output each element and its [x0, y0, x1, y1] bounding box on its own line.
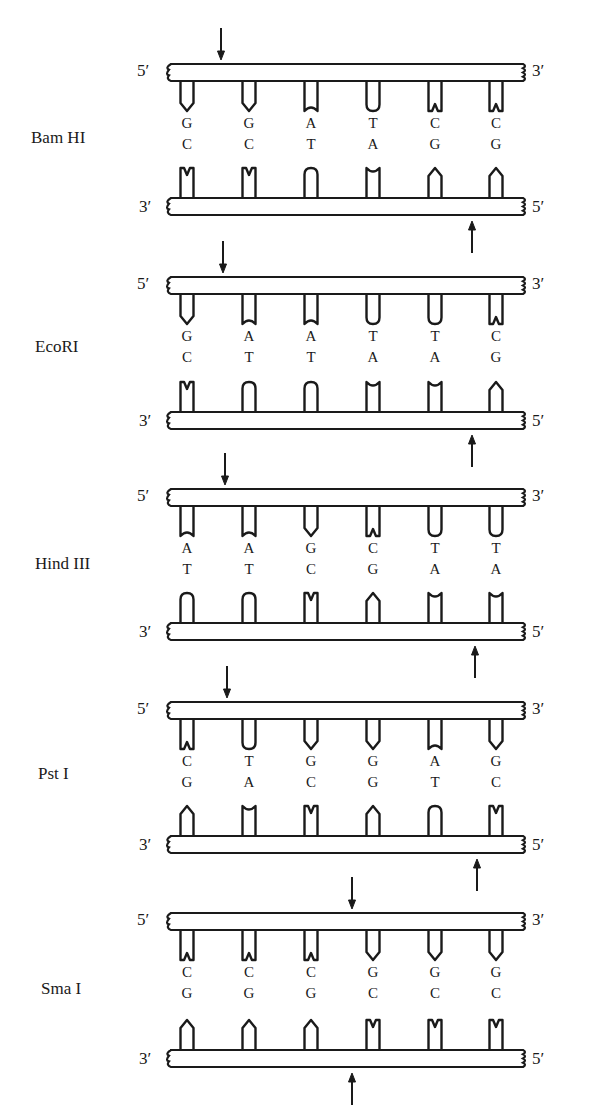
enzyme-panel-pst-i — [167, 666, 525, 891]
base-letter-top: T — [363, 116, 383, 131]
base-letter-bottom: G — [425, 137, 445, 152]
top-strand — [167, 913, 525, 930]
cut-arrow-down-icon — [218, 51, 225, 60]
top-5-prime-label: 5′ — [137, 274, 149, 294]
base-letter-top: G — [239, 116, 259, 131]
enzyme-panel-sma-i — [167, 877, 525, 1105]
base-A-icon — [429, 382, 442, 412]
base-C-icon — [181, 719, 194, 749]
base-A-icon — [367, 168, 380, 198]
base-C-icon — [305, 593, 318, 623]
bottom-5-prime-label: 5′ — [532, 1049, 544, 1069]
base-letter-bottom: C — [177, 350, 197, 365]
top-strand — [167, 277, 525, 294]
base-G-icon — [490, 930, 503, 960]
top-strand — [167, 489, 525, 506]
base-A-icon — [490, 593, 503, 623]
base-A-icon — [305, 294, 318, 324]
base-letter-bottom: G — [177, 986, 197, 1001]
base-C-icon — [181, 930, 194, 960]
base-G-icon — [181, 806, 194, 836]
bottom-5-prime-label: 5′ — [532, 197, 544, 217]
base-letter-bottom: C — [239, 137, 259, 152]
cut-arrow-down-icon — [224, 689, 231, 698]
base-letter-top: G — [177, 116, 197, 131]
base-G-icon — [243, 1020, 256, 1050]
base-letter-top: G — [301, 541, 321, 556]
cut-arrow-up-icon — [474, 859, 481, 868]
base-letter-bottom: G — [177, 775, 197, 790]
base-G-icon — [243, 81, 256, 111]
base-G-icon — [367, 930, 380, 960]
base-T-icon — [243, 382, 256, 412]
bottom-5-prime-label: 5′ — [532, 622, 544, 642]
base-G-icon — [429, 930, 442, 960]
base-T-icon — [429, 294, 442, 324]
cut-arrow-up-icon — [472, 646, 479, 655]
base-C-icon — [243, 168, 256, 198]
base-letter-top: C — [239, 965, 259, 980]
bottom-3-prime-label: 3′ — [139, 197, 151, 217]
base-G-icon — [367, 806, 380, 836]
enzyme-panel-bam-hi — [167, 28, 525, 253]
base-letter-bottom: A — [425, 350, 445, 365]
base-C-icon — [305, 930, 318, 960]
cut-arrow-down-icon — [222, 476, 229, 485]
bottom-strand — [167, 836, 525, 853]
cut-arrow-down-icon — [349, 900, 356, 909]
base-letter-top: G — [486, 754, 506, 769]
base-letter-bottom: T — [239, 562, 259, 577]
base-T-icon — [181, 593, 194, 623]
base-letter-top: A — [301, 116, 321, 131]
base-G-icon — [305, 1020, 318, 1050]
base-letter-top: C — [177, 965, 197, 980]
base-letter-bottom: G — [363, 562, 383, 577]
bottom-3-prime-label: 3′ — [139, 622, 151, 642]
base-letter-bottom: C — [363, 986, 383, 1001]
base-T-icon — [367, 81, 380, 111]
base-letter-top: C — [363, 541, 383, 556]
base-letter-top: C — [177, 754, 197, 769]
top-3-prime-label: 3′ — [532, 274, 544, 294]
bottom-5-prime-label: 5′ — [532, 835, 544, 855]
base-C-icon — [181, 382, 194, 412]
base-T-icon — [367, 294, 380, 324]
top-strand — [167, 702, 525, 719]
top-3-prime-label: 3′ — [532, 699, 544, 719]
base-A-icon — [243, 294, 256, 324]
base-letter-top: T — [239, 754, 259, 769]
top-5-prime-label: 5′ — [137, 486, 149, 506]
base-C-icon — [429, 81, 442, 111]
base-letter-bottom: C — [301, 562, 321, 577]
base-C-icon — [429, 1020, 442, 1050]
base-letter-top: T — [486, 541, 506, 556]
base-T-icon — [305, 168, 318, 198]
base-letter-bottom: G — [301, 986, 321, 1001]
bottom-5-prime-label: 5′ — [532, 411, 544, 431]
base-letter-bottom: G — [486, 137, 506, 152]
bottom-strand — [167, 1050, 525, 1067]
top-3-prime-label: 3′ — [532, 61, 544, 81]
base-letter-bottom: C — [301, 775, 321, 790]
base-A-icon — [243, 506, 256, 536]
base-G-icon — [490, 168, 503, 198]
bottom-3-prime-label: 3′ — [139, 411, 151, 431]
restriction-site-diagram: Bam HI5′3′3′5′GCGCATTACGCGEcoRI5′3′3′5′G… — [0, 0, 590, 1119]
base-letter-bottom: C — [177, 137, 197, 152]
top-5-prime-label: 5′ — [137, 61, 149, 81]
bottom-strand — [167, 198, 525, 215]
base-T-icon — [490, 506, 503, 536]
base-A-icon — [429, 719, 442, 749]
top-5-prime-label: 5′ — [137, 699, 149, 719]
enzyme-name: Pst I — [38, 764, 69, 784]
base-letter-bottom: T — [177, 562, 197, 577]
base-C-icon — [305, 806, 318, 836]
base-letter-bottom: C — [486, 775, 506, 790]
base-letter-bottom: A — [239, 775, 259, 790]
base-letter-top: T — [425, 329, 445, 344]
base-letter-bottom: T — [239, 350, 259, 365]
base-C-icon — [490, 294, 503, 324]
base-letter-top: T — [425, 541, 445, 556]
top-3-prime-label: 3′ — [532, 486, 544, 506]
base-A-icon — [367, 382, 380, 412]
